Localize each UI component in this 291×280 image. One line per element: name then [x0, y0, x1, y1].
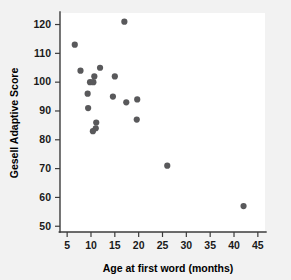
data-point	[93, 125, 99, 131]
data-point	[110, 93, 116, 99]
x-tick-label: 20	[133, 239, 145, 251]
y-tick-label: 90	[39, 104, 51, 116]
y-axis-title: Gesell Adaptive Score	[8, 68, 20, 179]
x-axis-tick-labels: 51015202530354045	[64, 239, 264, 251]
y-tick-label: 70	[39, 162, 51, 174]
x-tick-label: 5	[64, 239, 70, 251]
data-point	[134, 96, 140, 102]
data-point	[134, 117, 140, 123]
plot-area-background	[60, 13, 265, 232]
data-point	[91, 73, 97, 79]
y-axis-tick-labels: 5060708090100110120	[33, 18, 51, 232]
data-point	[90, 79, 96, 85]
y-axis-ticks	[55, 25, 60, 227]
x-tick-label: 25	[157, 239, 169, 251]
y-tick-label: 50	[39, 220, 51, 232]
x-tick-label: 45	[252, 239, 264, 251]
x-tick-label: 10	[85, 239, 97, 251]
x-axis-title: Age at first word (months)	[103, 262, 234, 274]
x-axis-ticks	[67, 232, 258, 237]
data-point	[85, 105, 91, 111]
scatter-plot: 5060708090100110120 51015202530354045 Ag…	[0, 0, 291, 280]
data-point	[77, 68, 83, 74]
data-point	[85, 91, 91, 97]
y-tick-label: 80	[39, 133, 51, 145]
chart-figure: 5060708090100110120 51015202530354045 Ag…	[0, 0, 291, 280]
x-tick-label: 30	[180, 239, 192, 251]
y-tick-label: 60	[39, 191, 51, 203]
y-tick-label: 110	[34, 47, 51, 59]
data-point	[112, 73, 118, 79]
x-tick-label: 35	[204, 239, 216, 251]
data-point	[240, 203, 246, 209]
data-point	[93, 119, 99, 125]
data-point	[123, 99, 129, 105]
x-tick-label: 40	[228, 239, 240, 251]
y-tick-label: 100	[33, 75, 51, 87]
y-tick-label: 120	[33, 18, 51, 30]
x-tick-label: 15	[109, 239, 121, 251]
data-point	[164, 163, 170, 169]
data-point	[121, 19, 127, 25]
data-point	[72, 42, 78, 48]
data-point	[97, 65, 103, 71]
